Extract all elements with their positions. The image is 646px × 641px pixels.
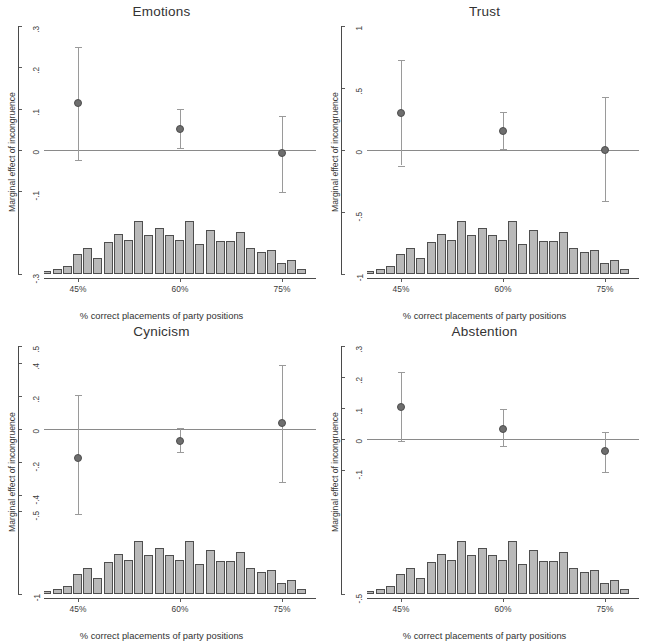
histogram-bar [93,258,102,274]
histogram-bar [620,269,629,274]
point-estimate-marker [176,437,184,445]
x-tick-mark [78,278,79,282]
x-axis-ticks: 45%60%75% [44,278,316,300]
confidence-interval-cap [398,372,405,373]
y-axis-line [18,26,19,274]
confidence-interval-cap [500,149,507,150]
histogram-bar [267,570,276,594]
point-estimate-marker [74,454,82,462]
confidence-interval-cap [500,112,507,113]
histogram-bar [549,241,558,274]
histogram-bar [539,561,548,594]
histogram-bar [44,271,51,274]
y-axis-line [341,346,342,594]
plot-canvas [367,346,639,594]
y-axis-ticks: 1.50-.5-1 [341,22,363,282]
histogram-bar [246,248,255,274]
histogram-bar [569,568,578,594]
confidence-interval-cap [279,365,286,366]
histogram-bar [134,541,143,594]
confidence-interval-cap [602,201,609,202]
x-axis-ticks: 45%60%75% [367,598,639,620]
confidence-interval-cap [602,432,609,433]
panel-emotions: Emotions Marginal effect of incongruence… [0,0,323,320]
panel-title: Cynicism [0,324,323,339]
y-axis-ticks: .3.2.10-.1-.3 [18,22,40,282]
histogram-bar [73,254,82,274]
histogram-bar [206,230,215,274]
histogram-bar [287,260,296,274]
histogram-bar [104,562,113,594]
point-estimate-marker [278,149,286,157]
x-tick-mark [605,598,606,602]
histogram-bar [498,240,507,274]
histogram-bar [104,242,113,274]
histogram-bar [277,263,286,274]
histogram-bar [427,562,436,594]
histogram-bar [185,541,194,594]
y-tick-label: -.3 [33,274,42,284]
confidence-interval-cap [279,482,286,483]
panel-title: Abstention [323,324,646,339]
y-tick-label: .5 [33,346,42,353]
histogram-bar [549,561,558,594]
histogram-bar [287,580,296,594]
y-tick-label: .1 [356,408,365,415]
plot-area-wrapper: Marginal effect of incongruence 1.50-.5-… [323,22,646,282]
histogram-bar [508,221,517,274]
histogram-bar [580,572,589,594]
y-tick-label: -.2 [33,462,42,472]
histogram-bar [297,589,306,594]
confidence-interval-cap [75,514,82,515]
x-axis-ticks: 45%60%75% [367,278,639,300]
confidence-interval-cap [602,472,609,473]
histogram-bar [124,240,133,274]
histogram-bar [600,583,609,594]
y-axis-ticks: .5.4.20-.2-.4-.5-1 [18,342,40,602]
y-tick-label: .2 [356,377,365,384]
x-tick-label: 45% [70,284,87,294]
histogram-bar [216,561,225,594]
x-tick-label: 60% [172,284,189,294]
histogram-bar [216,241,225,274]
plot-canvas [367,26,639,274]
plot-area-wrapper: Marginal effect of incongruence .3.2.10-… [323,342,646,602]
y-tick-label: -1 [356,274,365,281]
point-estimate-marker [176,125,184,133]
x-tick-label: 45% [70,604,87,614]
confidence-interval-cap [500,446,507,447]
x-axis-label: % correct placements of party positions [323,630,646,641]
x-axis-label: % correct placements of party positions [0,630,323,641]
y-tick-label: -.1 [356,470,365,480]
confidence-interval-cap [279,192,286,193]
histogram-bar [257,252,266,274]
histogram-bar [610,260,619,274]
y-tick-label: .2 [33,67,42,74]
histogram-bar [367,591,374,594]
histogram-bar [518,564,527,594]
point-estimate-marker [397,109,405,117]
histogram-bar [529,550,538,594]
histogram-bar [620,589,629,594]
y-tick-label: 0 [33,150,42,155]
point-estimate-marker [278,419,286,427]
histogram-bar [226,561,235,594]
histogram-bar [437,234,446,274]
x-tick-label: 45% [393,604,410,614]
histogram-bar [580,252,589,274]
point-estimate-marker [499,127,507,135]
histogram-bar [386,586,395,594]
histogram-bar [277,583,286,594]
histogram-bar [63,586,72,594]
histogram-bar [267,250,276,274]
histogram-bar [447,240,456,274]
confidence-interval-cap [75,47,82,48]
y-tick-label: .4 [33,363,42,370]
histogram-bar [83,568,92,594]
y-tick-label: 0 [356,150,365,155]
histogram-bar [44,591,51,594]
histogram-bar [478,548,487,594]
panel-cynicism: Cynicism Marginal effect of incongruence… [0,320,323,640]
histogram-bar [93,578,102,594]
x-tick-mark [78,598,79,602]
